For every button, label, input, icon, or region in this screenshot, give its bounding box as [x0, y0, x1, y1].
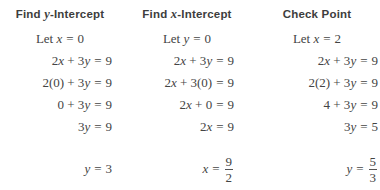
equals-sign: = — [352, 161, 367, 176]
math-variable: x — [186, 97, 192, 112]
equals-sign: = — [90, 119, 105, 134]
equation-step: 2(2) + 3y=9 — [254, 72, 380, 94]
step-lhs: 0 + 3y — [58, 97, 91, 112]
header-suffix: -Intercept — [50, 8, 104, 20]
step-rhs: 9 — [228, 75, 235, 90]
step-rhs: 9 — [228, 119, 235, 134]
step-lhs: 3y — [344, 119, 356, 134]
equals-sign: = — [90, 161, 105, 176]
equals-sign: = — [212, 119, 227, 134]
answer-line: y=53 — [254, 150, 380, 188]
equals-sign: = — [212, 97, 227, 112]
column-header-find-x-intercept: Find x-Intercept — [124, 6, 250, 22]
fraction-denominator: 3 — [368, 170, 379, 184]
step-rhs: 9 — [372, 97, 379, 112]
equals-sign: = — [356, 97, 371, 112]
header-suffix: Check Point — [283, 8, 352, 20]
math-variable: x — [171, 75, 177, 90]
equals-sign: = — [189, 31, 204, 46]
equals-sign: = — [90, 75, 105, 90]
equation-step: 2x + 3y=9 — [254, 50, 380, 72]
math-variable: x — [180, 53, 186, 68]
step-rhs: 9 — [106, 119, 113, 134]
equation-step: 2x + 3y=9 — [124, 50, 250, 72]
step-rhs: 9 — [228, 97, 235, 112]
assumption-line: Let y=0 — [124, 28, 250, 50]
column-header-check-point: Check Point — [254, 6, 380, 22]
equals-sign: = — [208, 161, 223, 176]
math-variable: x — [58, 53, 64, 68]
fraction-numerator: 5 — [368, 155, 379, 169]
fraction-denominator: 2 — [224, 170, 235, 184]
equals-sign: = — [356, 53, 371, 68]
step-rhs: 9 — [372, 53, 379, 68]
column-header-find-y-intercept: Find y-Intercept — [0, 6, 120, 22]
assumption-line: Let x=2 — [254, 28, 380, 50]
equals-sign: = — [356, 75, 371, 90]
answer-rhs: 3 — [106, 161, 113, 176]
step-lhs: 2x + 3(0) — [164, 75, 212, 90]
let-prefix: Let — [163, 31, 184, 46]
equals-sign: = — [212, 53, 227, 68]
equation-step: 3y=9 — [0, 116, 120, 138]
fraction: 53 — [368, 155, 379, 184]
step-lhs: 4 + 3y — [324, 97, 357, 112]
equation-step: 2x + 3y=9 — [0, 50, 120, 72]
step-lhs: 3y — [78, 119, 90, 134]
column-find-y-intercept: Find y-Intercept Let x=0 2x + 3y=9 2(0) … — [0, 0, 120, 190]
step-lhs: 2x — [200, 119, 212, 134]
equals-sign: = — [319, 31, 334, 46]
header-suffix: -Intercept — [177, 8, 231, 20]
intercept-worksheet: Find y-Intercept Let x=0 2x + 3y=9 2(0) … — [0, 0, 380, 190]
header-prefix: Find — [16, 8, 44, 20]
equals-sign: = — [356, 119, 371, 134]
answer-line: y=3 — [0, 150, 120, 188]
step-lhs: 2x + 3y — [174, 53, 212, 68]
column-find-x-intercept: Find x-Intercept Let y=0 2x + 3y=9 2x + … — [124, 0, 250, 190]
step-lhs: 2(2) + 3y — [308, 75, 356, 90]
fraction: 92 — [224, 155, 235, 184]
equation-step: 2x + 0=9 — [124, 94, 250, 116]
let-prefix: Let — [36, 31, 57, 46]
equation-step: 3y=5 — [254, 116, 380, 138]
let-value: 0 — [78, 31, 85, 46]
equation-step: 2x=9 — [124, 116, 250, 138]
step-lhs: 2x + 3y — [52, 53, 90, 68]
assumption-line: Let x=0 — [0, 28, 120, 50]
equals-sign: = — [90, 97, 105, 112]
equation-step: 0 + 3y=9 — [0, 94, 120, 116]
step-rhs: 9 — [106, 53, 113, 68]
let-prefix: Let — [293, 31, 314, 46]
step-rhs: 9 — [106, 75, 113, 90]
step-rhs: 9 — [372, 75, 379, 90]
answer-line: x=92 — [124, 150, 250, 188]
equation-step: 2x + 3(0)=9 — [124, 72, 250, 94]
step-lhs: 2(0) + 3y — [42, 75, 90, 90]
let-value: 2 — [335, 31, 342, 46]
let-value: 0 — [205, 31, 212, 46]
equation-step: 2(0) + 3y=9 — [0, 72, 120, 94]
step-rhs: 5 — [372, 119, 379, 134]
equals-sign: = — [62, 31, 77, 46]
step-rhs: 9 — [228, 53, 235, 68]
step-rhs: 9 — [106, 97, 113, 112]
fraction-numerator: 9 — [224, 155, 235, 169]
math-variable: x — [324, 53, 330, 68]
column-check-point: Check Point Let x=2 2x + 3y=9 2(2) + 3y=… — [254, 0, 380, 190]
step-lhs: 2x + 3y — [318, 53, 356, 68]
equals-sign: = — [212, 75, 227, 90]
equation-step: 4 + 3y=9 — [254, 94, 380, 116]
equals-sign: = — [90, 53, 105, 68]
header-prefix: Find — [142, 8, 170, 20]
step-lhs: 2x + 0 — [180, 97, 213, 112]
